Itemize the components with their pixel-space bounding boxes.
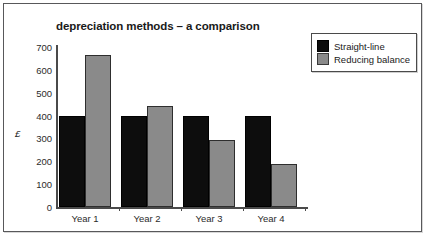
bar-group bbox=[245, 47, 297, 207]
bar-reducing-balance[interactable] bbox=[271, 164, 297, 207]
legend-swatch-straight-line bbox=[317, 40, 329, 52]
legend-swatch-reducing-balance bbox=[317, 53, 329, 65]
bar-straight-line[interactable] bbox=[183, 116, 209, 207]
bar-group bbox=[183, 47, 235, 207]
chart-title: depreciation methods – a comparison bbox=[56, 20, 260, 32]
x-axis-tick bbox=[181, 207, 182, 211]
y-axis-tick-label: 500 bbox=[36, 87, 52, 98]
x-axis-tick-label: Year 1 bbox=[71, 213, 98, 224]
y-axis-tick-label: 0 bbox=[47, 202, 52, 213]
x-axis-tick-label: Year 2 bbox=[133, 213, 160, 224]
x-axis-tick-label: Year 3 bbox=[195, 213, 222, 224]
legend-item: Straight-line bbox=[317, 40, 410, 52]
y-axis-tick-label: 100 bbox=[36, 179, 52, 190]
bar-reducing-balance[interactable] bbox=[147, 106, 173, 207]
bar-group bbox=[121, 47, 173, 207]
y-axis-label: £ bbox=[15, 128, 20, 139]
chart-frame: depreciation methods – a comparison 0100… bbox=[3, 3, 422, 232]
y-axis-tick-label: 200 bbox=[36, 156, 52, 167]
x-axis-tick bbox=[243, 207, 244, 211]
bar-reducing-balance[interactable] bbox=[209, 140, 235, 207]
x-axis-tick bbox=[305, 207, 306, 211]
bar-straight-line[interactable] bbox=[121, 116, 147, 207]
y-axis-tick-label: 700 bbox=[36, 42, 52, 53]
legend-label-reducing-balance: Reducing balance bbox=[334, 54, 410, 65]
x-axis-tick bbox=[119, 207, 120, 211]
y-axis-tick-label: 400 bbox=[36, 110, 52, 121]
legend-item: Reducing balance bbox=[317, 53, 410, 65]
bar-reducing-balance[interactable] bbox=[85, 55, 111, 207]
bar-straight-line[interactable] bbox=[245, 116, 271, 207]
bar-straight-line[interactable] bbox=[59, 116, 85, 207]
x-axis-tick-label: Year 4 bbox=[257, 213, 284, 224]
y-axis-tick-label: 300 bbox=[36, 133, 52, 144]
plot-area bbox=[57, 47, 305, 207]
chart-legend: Straight-line Reducing balance bbox=[311, 33, 417, 72]
legend-label-straight-line: Straight-line bbox=[334, 41, 385, 52]
bar-group bbox=[59, 47, 111, 207]
y-axis-tick-labels: 0100200300400500600700 bbox=[4, 4, 52, 239]
y-axis-tick-label: 600 bbox=[36, 64, 52, 75]
